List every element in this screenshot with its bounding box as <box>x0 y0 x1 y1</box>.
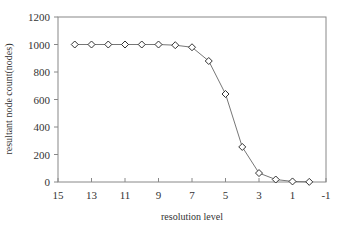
data-point-marker <box>222 91 229 98</box>
x-axis-label: resolution level <box>161 211 223 222</box>
y-tick-label: 600 <box>34 94 51 106</box>
x-tick-label: 13 <box>86 189 98 201</box>
data-series <box>71 41 313 185</box>
y-axis-label: resultant node count(nodes) <box>3 43 15 154</box>
data-point-marker <box>138 41 145 48</box>
y-tick-label: 1200 <box>28 11 51 23</box>
x-tick-label: 11 <box>120 189 131 201</box>
data-point-marker <box>155 41 162 48</box>
x-tick-label: 5 <box>223 189 229 201</box>
x-tick-label: 15 <box>53 189 65 201</box>
series-line <box>75 45 310 182</box>
data-point-marker <box>105 41 112 48</box>
y-tick-label: 200 <box>34 149 51 161</box>
x-tick-label: 7 <box>189 189 195 201</box>
y-tick-label: 800 <box>34 66 51 78</box>
data-point-marker <box>289 178 296 185</box>
line-chart: 020040060080010001200 15131197531-1 reso… <box>0 0 349 236</box>
data-point-marker <box>172 42 179 49</box>
x-tick-label: 9 <box>156 189 162 201</box>
data-point-marker <box>306 178 313 185</box>
plot-frame <box>58 17 326 182</box>
y-axis: 020040060080010001200 <box>28 11 58 188</box>
data-point-marker <box>256 170 263 177</box>
x-tick-label: -1 <box>321 189 330 201</box>
x-tick-label: 3 <box>256 189 262 201</box>
y-tick-label: 1000 <box>28 39 51 51</box>
y-tick-label: 0 <box>45 176 51 188</box>
y-tick-label: 400 <box>34 121 51 133</box>
data-point-marker <box>122 41 129 48</box>
data-point-marker <box>88 41 95 48</box>
data-point-marker <box>239 143 246 150</box>
data-point-marker <box>71 41 78 48</box>
plot-area <box>58 17 326 182</box>
x-tick-label: 1 <box>290 189 296 201</box>
